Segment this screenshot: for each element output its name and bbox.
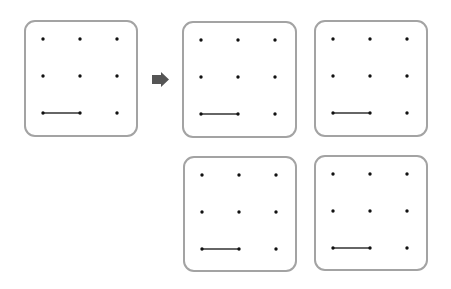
grid-dot [405,209,408,212]
grid-dot [368,172,371,175]
grid-dot [405,172,408,175]
dot-grid [185,158,299,274]
grid-dot [115,111,118,114]
grid-dot [237,173,240,176]
grid-dot [331,37,334,40]
grid-dot [405,246,408,249]
grid-dot [41,37,44,40]
grid-dot [274,210,277,213]
grid-dot [274,173,277,176]
grid-dot [331,172,334,175]
grid-dot [368,111,371,114]
grid-dot [368,246,371,249]
grid-dot [274,247,277,250]
grid-dot [78,74,81,77]
grid-dot [200,210,203,213]
grid-dot [236,75,239,78]
grid-dot [405,111,408,114]
grid-dot [236,112,239,115]
answer-option-1-panel[interactable] [182,21,297,138]
grid-dot [368,74,371,77]
right-arrow-icon [152,72,169,87]
grid-dot [199,75,202,78]
grid-dot [236,38,239,41]
grid-dot [199,38,202,41]
arrow-shape [152,72,169,87]
grid-dot [199,112,202,115]
grid-dot [273,75,276,78]
grid-dot [41,74,44,77]
grid-dot [237,210,240,213]
grid-dot [78,37,81,40]
grid-dot [41,111,44,114]
grid-dot [331,209,334,212]
answer-option-4-panel[interactable] [314,155,428,271]
dot-grid [26,22,140,139]
dot-grid [316,22,430,139]
source-grid-panel [24,20,138,137]
grid-dot [331,74,334,77]
dot-grid [184,23,299,140]
grid-dot [115,74,118,77]
grid-dot [200,173,203,176]
answer-option-3-panel[interactable] [183,156,297,272]
dot-grid [316,157,430,273]
grid-dot [115,37,118,40]
grid-dot [405,37,408,40]
grid-dot [368,209,371,212]
grid-dot [78,111,81,114]
grid-dot [273,112,276,115]
grid-dot [368,37,371,40]
grid-dot [273,38,276,41]
grid-dot [237,247,240,250]
answer-option-2-panel[interactable] [314,20,428,137]
grid-dot [405,74,408,77]
grid-dot [200,247,203,250]
grid-dot [331,111,334,114]
grid-dot [331,246,334,249]
